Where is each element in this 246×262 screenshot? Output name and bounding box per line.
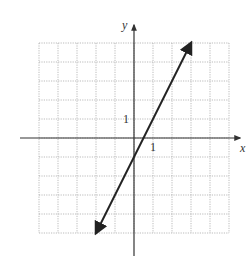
coordinate-plane: [0, 0, 246, 262]
y-tick-label: 1: [123, 112, 129, 127]
x-tick-label: 1: [150, 140, 156, 155]
x-axis-label: x: [240, 141, 245, 156]
y-axis-label: y: [122, 18, 127, 33]
